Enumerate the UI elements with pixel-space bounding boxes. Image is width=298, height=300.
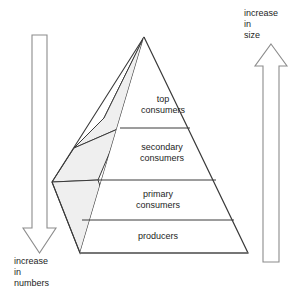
ecological-pyramid-diagram: top consumers secondary consumers primar…: [0, 0, 298, 300]
left-arrow-label: increase in numbers: [14, 256, 90, 289]
tier-label-top-consumers-line2: consumers: [124, 105, 202, 116]
left-arrow-label-line2: in: [14, 267, 90, 278]
right-arrow-label-line2: in: [244, 19, 298, 30]
tier-label-top-consumers: top consumers: [124, 94, 202, 116]
increase-in-numbers-arrow: [23, 35, 56, 253]
tier-label-producers: producers: [110, 231, 206, 242]
right-arrow-label: increase in size: [244, 8, 298, 41]
left-arrow-label-line1: increase: [14, 256, 90, 267]
tier-label-primary-consumers: primary consumers: [110, 189, 206, 211]
tier-label-secondary-consumers-line1: secondary: [114, 142, 210, 153]
tier-label-secondary-consumers: secondary consumers: [114, 142, 210, 164]
left-arrow-label-line3: numbers: [14, 278, 90, 289]
right-arrow-label-line3: size: [244, 30, 298, 41]
left-arrow-shape: [23, 35, 56, 253]
tier-label-producers-line1: producers: [110, 231, 206, 242]
right-arrow-label-line1: increase: [244, 8, 298, 19]
tier-label-top-consumers-line1: top: [124, 94, 202, 105]
tier-label-primary-consumers-line1: primary: [110, 189, 206, 200]
right-arrow-shape: [255, 44, 287, 262]
tier-label-primary-consumers-line2: consumers: [110, 200, 206, 211]
increase-in-size-arrow: [255, 44, 287, 262]
tier-label-secondary-consumers-line2: consumers: [114, 153, 210, 164]
